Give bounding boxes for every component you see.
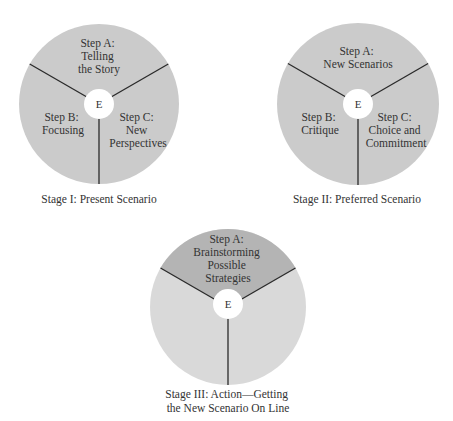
helping-model-diagram: E Step A: Telling the Story Step B: Focu…	[0, 0, 453, 421]
stage-1-hub-label: E	[96, 98, 103, 110]
stage-1-step-b: Step B: Focusing	[42, 111, 84, 137]
stage-3-caption: Stage III: Action—Getting the New Scenar…	[165, 388, 291, 414]
stage-2-hub-label: E	[355, 98, 362, 110]
stage-1-step-a: Step A: Telling the Story	[78, 37, 120, 76]
stage-2-caption: Stage II: Preferred Scenario	[293, 193, 421, 206]
stage-3: E Step A: Brainstorming Possible Strateg…	[150, 229, 306, 414]
stage-2: E Step A: New Scenarios Step B: Critique…	[277, 23, 439, 206]
stage-3-hub-label: E	[225, 298, 232, 310]
stage-2-step-b: Step B: Critique	[301, 111, 339, 137]
stage-1-caption: Stage I: Present Scenario	[41, 193, 157, 206]
stage-1: E Step A: Telling the Story Step B: Focu…	[19, 24, 179, 206]
